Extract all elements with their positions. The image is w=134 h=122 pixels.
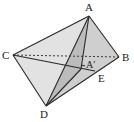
label-d: D [40, 109, 48, 120]
label-a-prime: A′ [86, 60, 95, 70]
label-e: E [98, 73, 105, 84]
label-a: A [85, 2, 93, 13]
tetrahedron-figure [0, 0, 134, 122]
geometry-diagram: A B C D E A′ [0, 0, 134, 122]
label-c: C [2, 50, 9, 61]
label-b: B [122, 52, 129, 63]
